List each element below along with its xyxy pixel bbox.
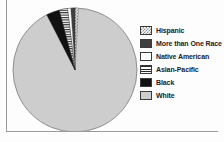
native-american-swatch-icon — [140, 52, 152, 61]
left-rule-divider — [6, 0, 7, 132]
pie-chart-figure: Hispanic More than One Race Native Ameri… — [0, 0, 224, 142]
legend-item-asian-pacific[interactable]: Asian-Pacific — [140, 63, 224, 76]
legend-label-hispanic: Hispanic — [156, 26, 184, 35]
legend-item-more-than-one-race[interactable]: More than One Race — [140, 37, 224, 50]
asian-pacific-swatch-icon — [140, 65, 152, 74]
legend-item-white[interactable]: White — [140, 89, 224, 102]
black-swatch-icon — [140, 78, 152, 87]
chart-legend: Hispanic More than One Race Native Ameri… — [140, 24, 224, 102]
legend-label-white: White — [156, 91, 175, 100]
more-than-one-race-swatch-icon — [140, 39, 152, 48]
legend-label-asian-pacific: Asian-Pacific — [156, 65, 199, 74]
hispanic-swatch-icon — [140, 26, 152, 35]
white-swatch-icon — [140, 91, 152, 100]
bottom-rule-divider — [6, 131, 218, 132]
legend-label-native-american: Native American — [156, 52, 209, 61]
legend-item-native-american[interactable]: Native American — [140, 50, 224, 63]
legend-label-black: Black — [156, 78, 174, 87]
pie-chart-plot-area — [12, 5, 138, 131]
legend-item-black[interactable]: Black — [140, 76, 224, 89]
pie-chart-svg — [12, 5, 138, 131]
legend-item-hispanic[interactable]: Hispanic — [140, 24, 224, 37]
legend-label-more-than-one-race: More than One Race — [156, 39, 222, 48]
